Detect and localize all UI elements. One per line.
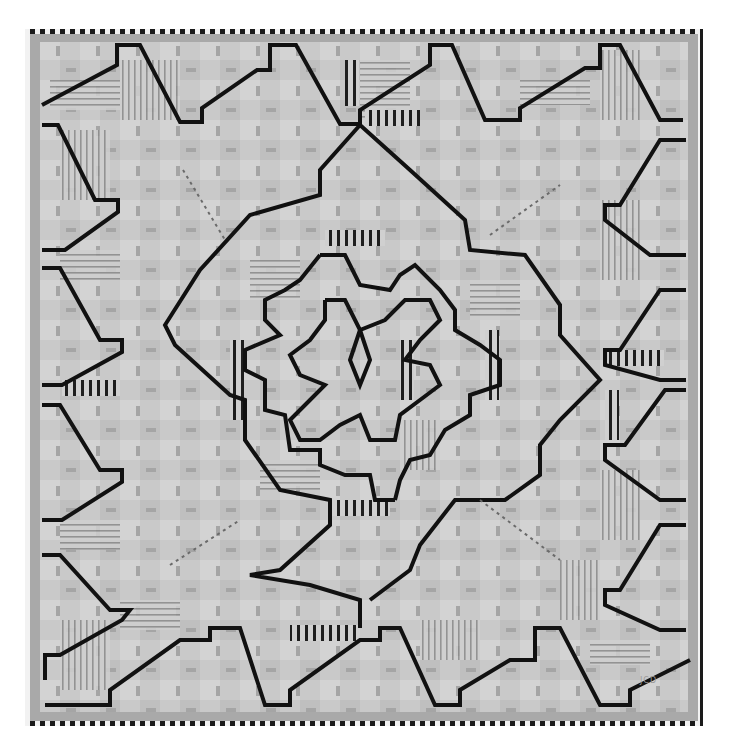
quilt-signature: JCD (640, 676, 657, 685)
quilt-photo (0, 0, 729, 743)
